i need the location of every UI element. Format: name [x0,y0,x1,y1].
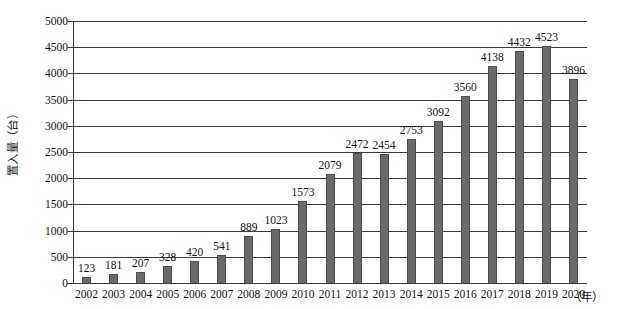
bar[interactable] [136,272,145,283]
bar-value-label: 420 [186,246,203,258]
gridline [73,73,587,74]
y-axis-tick-mark [68,231,73,232]
bar-value-label: 3896 [562,64,585,76]
y-axis-title-label: 置入量（台） [4,108,20,176]
y-axis-tick-mark [68,152,73,153]
bar[interactable] [326,174,335,283]
bar[interactable] [542,46,551,283]
bar[interactable] [190,261,199,283]
bar[interactable] [353,153,362,283]
y-axis-tick-mark [68,21,73,22]
y-axis-tick-label: 0 [24,277,68,289]
bar[interactable] [217,255,226,283]
bar-value-label: 4523 [535,31,558,43]
y-axis-tick-labels: 0500100015002000250030003500400045005000 [22,0,68,309]
bar[interactable] [407,139,416,283]
bar[interactable] [163,266,172,283]
x-axis-tick-label: 2019 [535,288,558,300]
y-axis-tick-label: 1000 [24,225,68,237]
y-axis-tick-mark [68,73,73,74]
y-axis-tick-mark [68,257,73,258]
gridline [73,100,587,101]
y-axis-tick-label: 4000 [24,67,68,79]
bar[interactable] [569,79,578,283]
bar[interactable] [461,96,470,283]
bar[interactable] [298,201,307,283]
x-axis-tick-label: 2008 [237,288,260,300]
gridline [73,283,587,284]
bar[interactable] [109,274,118,283]
bar-value-label: 2753 [400,124,423,136]
y-axis-title: 置入量（台） [0,0,24,283]
plot-area: 1231812073284205418891023157320792472245… [73,21,587,283]
bar-value-label: 541 [213,240,230,252]
y-axis-tick-mark [68,126,73,127]
y-axis-tick-mark [68,178,73,179]
bar-value-label: 123 [78,262,95,274]
y-axis-tick-label: 3500 [24,94,68,106]
x-axis-tick-label: 2015 [427,288,450,300]
bar-value-label: 889 [240,221,257,233]
x-axis-tick-label: 2011 [319,288,342,300]
x-axis-tick-label: 2018 [508,288,531,300]
x-axis-tick-label: 2004 [129,288,152,300]
y-axis-tick-label: 500 [24,251,68,263]
y-axis-tick-mark [68,283,73,284]
bar-value-label: 181 [105,259,122,271]
bar[interactable] [434,121,443,283]
x-axis-tick-label: 2012 [346,288,369,300]
bar-value-label: 2472 [346,138,369,150]
y-axis-tick-label: 2000 [24,172,68,184]
x-axis-tick-label: 2009 [264,288,287,300]
y-axis-tick-mark [68,204,73,205]
x-axis-tick-label: 2016 [454,288,477,300]
x-axis-tick-label: 2013 [373,288,396,300]
y-axis-tick-label: 5000 [24,15,68,27]
x-axis-tick-label: 2005 [156,288,179,300]
x-axis-tick-label: 2017 [481,288,504,300]
gridline [73,21,587,22]
bar[interactable] [380,154,389,283]
x-axis-tick-label: 2020 [562,288,585,300]
y-axis-tick-label: 1500 [24,198,68,210]
x-axis-tick-label: 2002 [75,288,98,300]
y-axis-tick-mark [68,47,73,48]
bar[interactable] [82,277,91,283]
bar-value-label: 3092 [427,106,450,118]
bar-chart: 置入量（台） 050010001500200025003000350040004… [0,0,619,309]
bar-value-label: 1023 [264,214,287,226]
bar[interactable] [515,51,524,283]
y-axis-tick-label: 3000 [24,120,68,132]
bar-value-label: 3560 [454,81,477,93]
bar-value-label: 1573 [291,186,314,198]
bar-value-label: 2454 [373,139,396,151]
y-axis-tick-label: 2500 [24,146,68,158]
x-axis-tick-label: 2006 [183,288,206,300]
bar[interactable] [271,229,280,283]
bar-value-label: 328 [159,251,176,263]
y-axis-tick-mark [68,100,73,101]
bar-value-label: 2079 [319,159,342,171]
gridline [73,152,587,153]
bar-value-label: 4138 [481,51,504,63]
y-axis-tick-label: 4500 [24,41,68,53]
gridline [73,126,587,127]
bar[interactable] [244,236,253,283]
x-axis-tick-label: 2010 [291,288,314,300]
x-axis-tick-label: 2014 [400,288,423,300]
bar-value-label: 207 [132,257,149,269]
x-axis-tick-label: 2003 [102,288,125,300]
bar-value-label: 4432 [508,36,531,48]
bar[interactable] [488,66,497,283]
x-axis-tick-label: 2007 [210,288,233,300]
